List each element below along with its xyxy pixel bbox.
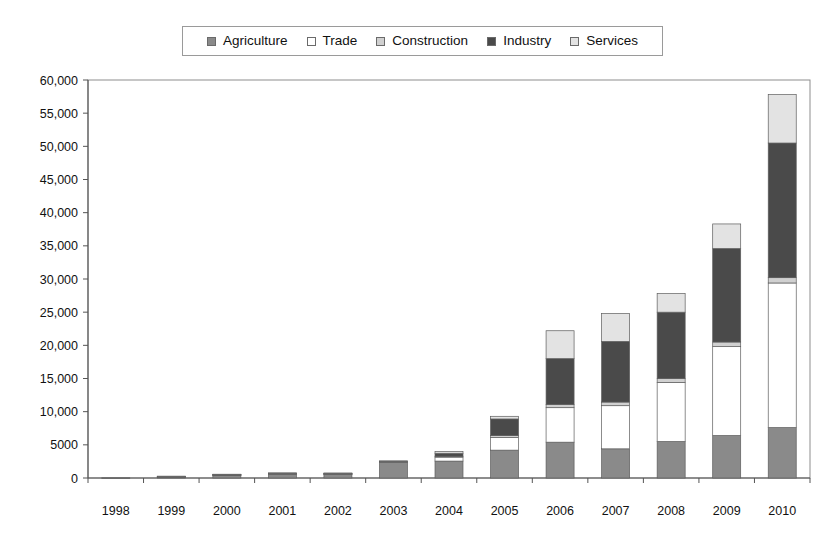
bar-segment	[435, 453, 463, 456]
bar-segment	[768, 428, 796, 478]
x-tick-label: 1998	[102, 504, 130, 518]
x-tick-label: 2000	[213, 504, 241, 518]
bar-segment	[435, 451, 463, 453]
bar-segment	[657, 379, 685, 383]
legend-item: Agriculture	[207, 34, 288, 48]
bar-segment	[768, 143, 796, 278]
bar-segment	[102, 478, 130, 479]
bar-segment	[602, 406, 630, 449]
bar-segment	[491, 438, 519, 451]
bar-segment	[546, 408, 574, 442]
bar-segment	[713, 248, 741, 342]
bar-segment	[602, 402, 630, 406]
legend-label: Agriculture	[223, 34, 288, 48]
x-tick-label: 2010	[768, 504, 796, 518]
bar-segment	[602, 341, 630, 402]
chart-legend: AgricultureTradeConstructionIndustryServ…	[182, 26, 663, 56]
bar-segment	[602, 313, 630, 341]
x-tick-label: 2002	[324, 504, 352, 518]
x-tick-label: 2005	[491, 504, 519, 518]
bar-segment	[546, 359, 574, 405]
bar-segment	[379, 461, 407, 462]
bar-segment	[268, 474, 296, 478]
plot-border	[88, 80, 810, 478]
bar-segment	[324, 473, 352, 474]
legend-item: Construction	[376, 34, 468, 48]
bar-segment	[546, 442, 574, 478]
x-tick-label: 2006	[546, 504, 574, 518]
legend-swatch-icon	[487, 37, 496, 46]
bar-segment	[657, 294, 685, 313]
legend-item: Trade	[307, 34, 358, 48]
legend-swatch-icon	[376, 37, 385, 46]
bar-segment	[657, 382, 685, 441]
legend-label: Trade	[323, 34, 358, 48]
legend-swatch-icon	[307, 37, 316, 46]
bar-segment	[546, 404, 574, 407]
x-tick-label: 2008	[657, 504, 685, 518]
y-tick-label: 45,000	[40, 173, 78, 187]
legend-label: Industry	[503, 34, 551, 48]
x-tick-label: 2003	[380, 504, 408, 518]
legend-label: Services	[586, 34, 638, 48]
bar-segment	[491, 419, 519, 436]
bar-segment	[713, 436, 741, 478]
bar-segment	[213, 474, 241, 475]
bar-segment	[379, 462, 407, 478]
bar-segment	[768, 278, 796, 283]
x-tick-label: 1999	[157, 504, 185, 518]
x-tick-label: 2009	[713, 504, 741, 518]
bar-segment	[546, 331, 574, 359]
y-tick-label: 60,000	[40, 74, 78, 88]
y-tick-label: 20,000	[40, 339, 78, 353]
chart-plot-area: 0500010,00015,00020,00025,00030,00035,00…	[0, 62, 826, 541]
bar-segment	[435, 457, 463, 461]
y-tick-label: 55,000	[40, 107, 78, 121]
legend-swatch-icon	[570, 37, 579, 46]
bar-segment	[768, 95, 796, 143]
bar-segment	[713, 347, 741, 436]
y-tick-label: 30,000	[40, 273, 78, 287]
legend-item: Industry	[487, 34, 551, 48]
bar-segment	[713, 224, 741, 249]
x-tick-label: 2001	[268, 504, 296, 518]
bar-segment	[157, 476, 185, 477]
bar-segment	[435, 461, 463, 478]
chart-page: AgricultureTradeConstructionIndustryServ…	[0, 0, 826, 541]
stacked-bar-chart: 0500010,00015,00020,00025,00030,00035,00…	[0, 62, 826, 541]
y-tick-label: 0	[71, 472, 78, 486]
y-tick-label: 15,000	[40, 372, 78, 386]
y-tick-label: 10,000	[40, 405, 78, 419]
bar-segment	[602, 449, 630, 478]
y-tick-label: 5000	[50, 438, 78, 452]
bar-segment	[657, 442, 685, 478]
y-tick-label: 35,000	[40, 239, 78, 253]
bar-segment	[491, 450, 519, 478]
y-tick-label: 50,000	[40, 140, 78, 154]
bar-segment	[713, 342, 741, 347]
legend-item: Services	[570, 34, 638, 48]
x-tick-label: 2007	[602, 504, 630, 518]
legend-swatch-icon	[207, 37, 216, 46]
bar-segment	[657, 312, 685, 378]
x-tick-label: 2004	[435, 504, 463, 518]
y-tick-label: 25,000	[40, 306, 78, 320]
legend-label: Construction	[392, 34, 468, 48]
bar-segment	[768, 283, 796, 428]
bar-segment	[491, 416, 519, 419]
y-tick-label: 40,000	[40, 206, 78, 220]
bar-segment	[268, 473, 296, 474]
